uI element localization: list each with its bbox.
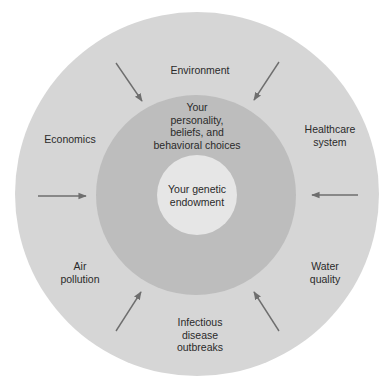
label-healthcare: Healthcare system xyxy=(295,123,365,148)
label-water-quality: Water quality xyxy=(290,260,360,285)
label-environment: Environment xyxy=(160,64,240,77)
label-personality-beliefs: Your personality, beliefs, and behaviora… xyxy=(137,101,257,151)
label-infectious-disease: Infectious disease outbreaks xyxy=(160,316,240,354)
label-economics: Economics xyxy=(30,133,110,146)
label-air-pollution: Air pollution xyxy=(45,260,115,285)
label-genetic-endowment: Your genetic endowment xyxy=(157,183,237,208)
